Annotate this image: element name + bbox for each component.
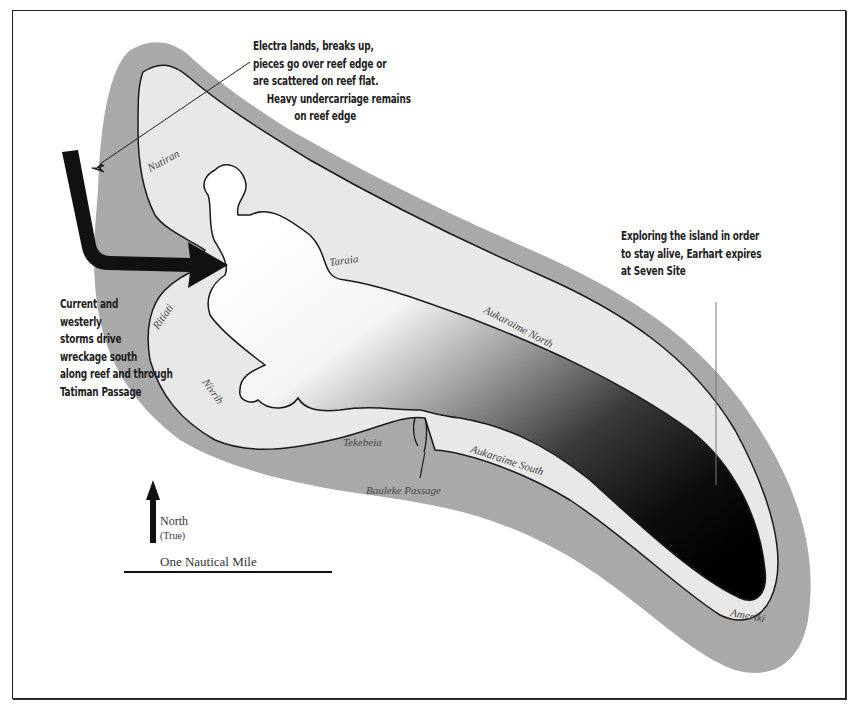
crash-annotation: Electra lands, breaks up, pieces go over…: [253, 38, 411, 126]
scale-label: One Nautical Mile: [160, 554, 257, 570]
seven-site-annotation: Exploring the island in order to stay al…: [621, 228, 761, 281]
annotation-line: to stay alive, Earhart expires: [621, 246, 761, 264]
current-annotation: Current and westerly storms drive wrecka…: [60, 296, 173, 401]
annotation-line: Current and: [60, 296, 173, 314]
annotation-line: wreckage south: [60, 349, 173, 367]
annotation-line: on reef edge: [253, 108, 411, 126]
annotation-line: pieces go over reef edge or: [253, 56, 411, 74]
annotation-line: Tatiman Passage: [60, 384, 173, 402]
north-sub-label: (True): [160, 530, 185, 541]
place-label-tekebeia: Tekebeia: [343, 436, 382, 448]
annotation-line: Exploring the island in order: [621, 228, 761, 246]
annotation-line: are scattered on reef flat.: [253, 73, 411, 91]
annotation-line: Electra lands, breaks up,: [253, 38, 411, 56]
annotation-line: at Seven Site: [621, 263, 761, 281]
annotation-line: along reef and through: [60, 366, 173, 384]
annotation-line: westerly: [60, 314, 173, 332]
north-label: North: [160, 514, 188, 529]
north-arrow-icon: [146, 480, 160, 543]
annotation-line: storms drive: [60, 331, 173, 349]
place-label-bauleke-passage: Bauleke Passage: [366, 484, 441, 496]
annotation-line: Heavy undercarriage remains: [253, 91, 411, 109]
